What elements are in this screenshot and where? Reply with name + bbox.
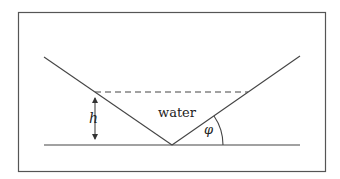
outer-frame [19,13,326,172]
angle-arc [214,116,223,145]
right-slope [172,56,300,145]
left-slope [44,57,172,145]
water-label: water [158,105,197,120]
angle-label: φ [204,122,214,137]
channel-diagram: water h φ [0,0,340,179]
height-label: h [89,110,98,126]
